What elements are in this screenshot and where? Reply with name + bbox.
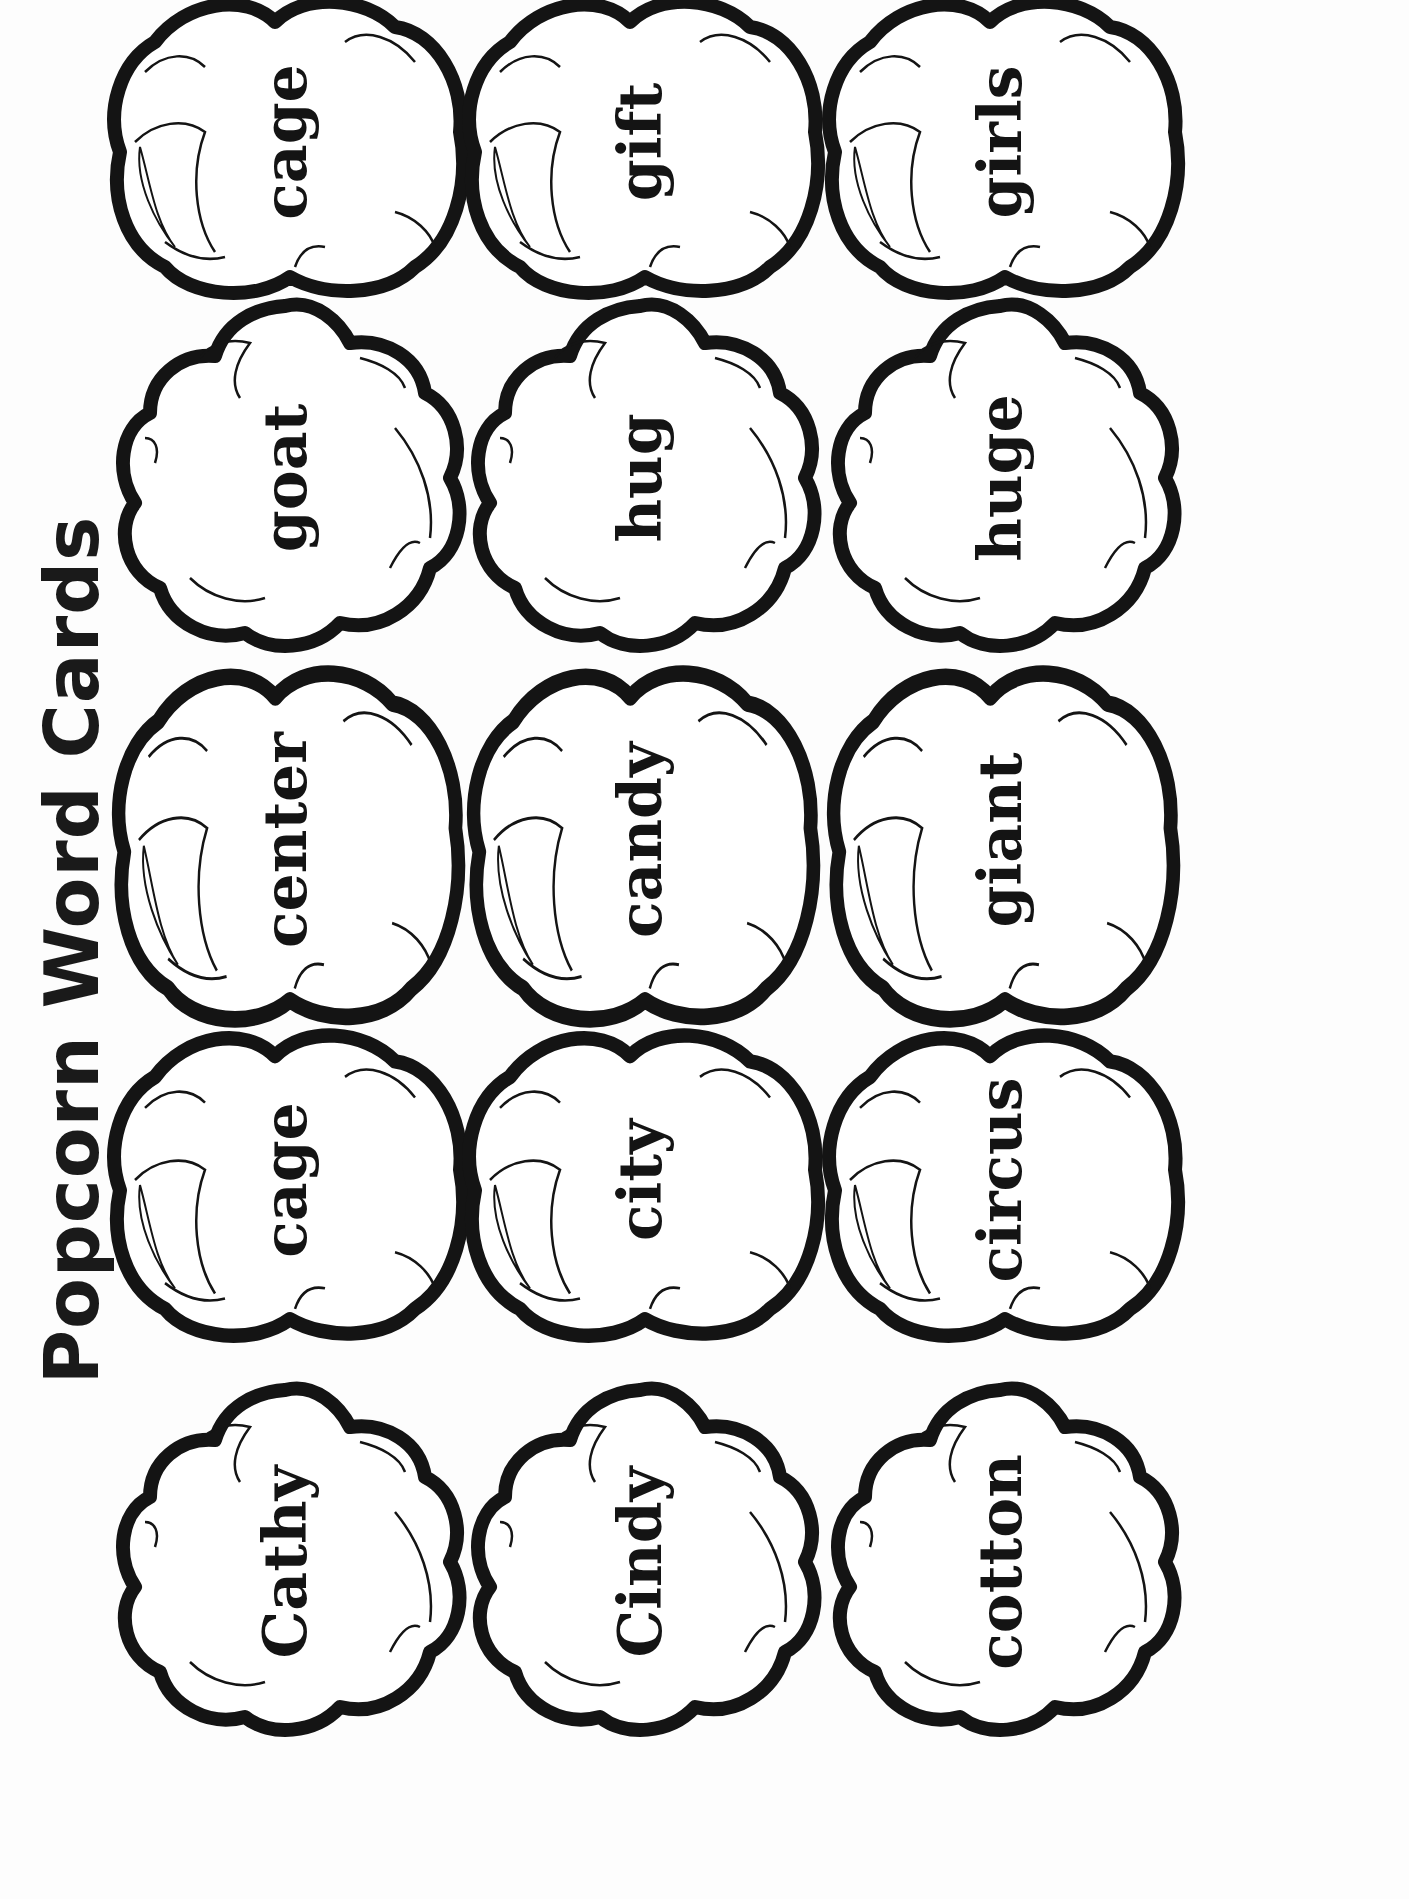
card-word: center	[250, 732, 320, 948]
card-word: cage	[250, 1102, 320, 1258]
card-word: city	[605, 1119, 675, 1241]
word-card[interactable]: circus	[810, 1015, 1190, 1345]
word-card[interactable]: giant	[815, 650, 1185, 1030]
word-card[interactable]: cage	[95, 0, 475, 302]
word-card[interactable]: girls	[810, 0, 1190, 302]
word-card[interactable]: gift	[450, 0, 830, 302]
card-word: Cindy	[605, 1467, 675, 1658]
card-word: Cathy	[250, 1466, 320, 1659]
card-word: cage	[250, 64, 320, 220]
card-word: gift	[605, 83, 675, 201]
word-card[interactable]: Cathy	[100, 1372, 470, 1752]
word-card[interactable]: cotton	[815, 1372, 1185, 1752]
card-word: huge	[965, 394, 1035, 561]
card-word: candy	[605, 742, 675, 938]
word-card[interactable]: Cindy	[455, 1372, 825, 1752]
word-card[interactable]: city	[450, 1015, 830, 1345]
word-card[interactable]: candy	[455, 650, 825, 1030]
word-card[interactable]: hug	[455, 288, 825, 668]
card-word: girls	[965, 66, 1035, 219]
word-card[interactable]: goat	[100, 288, 470, 668]
word-card[interactable]: cage	[95, 1015, 475, 1345]
card-word: giant	[965, 753, 1035, 928]
card-word: goat	[250, 404, 320, 553]
card-word: circus	[965, 1078, 1035, 1283]
card-word: cotton	[965, 1454, 1035, 1670]
worksheet-page: Popcorn Word Cards cage gift girls goat …	[0, 0, 1409, 1899]
word-card[interactable]: huge	[815, 288, 1185, 668]
word-card[interactable]: center	[100, 650, 470, 1030]
card-word: hug	[605, 413, 675, 542]
